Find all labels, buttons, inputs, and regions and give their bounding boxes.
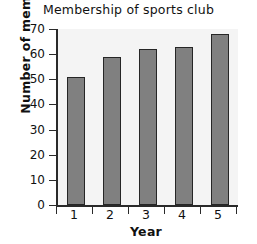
y-axis-tick-label: 40 [0,98,45,110]
y-axis-tick-label: 10 [0,174,45,186]
bar [211,34,230,205]
x-axis-tick [236,207,237,214]
x-axis-tick-label: 4 [165,208,199,221]
x-axis-tick-label: 2 [93,208,127,221]
y-axis-tick-label: 20 [0,149,45,161]
bar [103,57,122,205]
y-axis-tick [49,79,56,80]
y-axis-tick-label: 30 [0,124,45,136]
y-axis-tick [49,29,56,30]
x-axis-title: Year [56,224,236,239]
x-axis-tick-label: 1 [57,208,91,221]
chart-title: Membership of sports club [0,2,257,17]
y-axis-tick [49,180,56,181]
y-axis-tick-label: 50 [0,73,45,85]
y-axis-tick-label: 70 [0,23,45,35]
y-axis-tick [49,155,56,156]
y-axis-tick [49,130,56,131]
bar [175,47,194,205]
x-axis-tick-label: 5 [201,208,235,221]
bar [139,49,158,205]
y-axis-tick-label: 60 [0,48,45,60]
bars-layer [58,29,238,205]
y-axis-tick-label: 0 [0,199,45,211]
bar [67,77,86,205]
y-axis-tick [49,205,56,206]
bar-chart: Membership of sports club Number of memb… [0,0,257,244]
y-axis-tick [49,54,56,55]
x-axis-tick-label: 3 [129,208,163,221]
y-axis-tick [49,104,56,105]
plot-area [56,29,238,207]
